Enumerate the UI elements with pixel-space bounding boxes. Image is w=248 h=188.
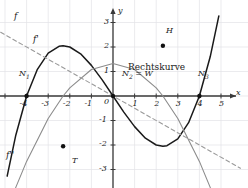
x-tick-1: 1: [133, 99, 138, 108]
x-tick-neg1: -1: [84, 99, 92, 108]
function-graph-figure: f f' f'' x y 0 N1 N2 = W N3 H T Rechtsku…: [0, 0, 248, 188]
plot-canvas: [0, 0, 248, 188]
point-label-t: T: [72, 156, 77, 165]
curve-label-f-double-prime: f'': [6, 150, 14, 160]
y-tick-neg2: -2: [99, 139, 107, 148]
y-tick-3: 3: [104, 17, 109, 26]
x-tick-neg2: -2: [63, 99, 71, 108]
y-tick-neg1: -1: [99, 115, 107, 124]
point-label-n1: N1: [19, 69, 30, 80]
y-tick-2: 2: [104, 41, 109, 50]
point-label-h: H: [166, 26, 173, 35]
x-tick-3: 3: [176, 99, 181, 108]
curve-label-f-prime: f': [33, 34, 39, 44]
x-tick-5: 5: [219, 99, 224, 108]
x-tick-4: 4: [197, 99, 202, 108]
x-tick-2: 2: [154, 99, 159, 108]
y-axis-label: y: [118, 6, 123, 15]
gridlines: [0, 0, 248, 188]
curvature-note: Rechtskurve: [128, 62, 185, 72]
y-tick-neg3: -3: [99, 164, 107, 173]
x-tick-neg3: -3: [41, 99, 49, 108]
point-label-n3: N3: [198, 69, 209, 80]
origin-label: 0: [104, 97, 109, 106]
y-tick-1: 1: [104, 66, 109, 75]
curve-label-f: f: [14, 11, 17, 21]
x-tick-neg4: -4: [20, 99, 28, 108]
x-axis-label: x: [236, 88, 241, 97]
